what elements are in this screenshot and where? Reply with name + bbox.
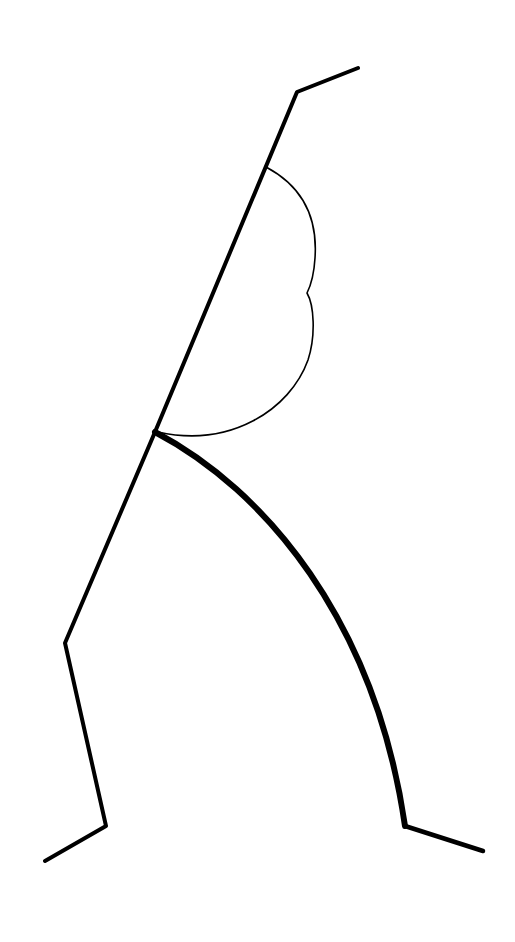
- line-drawing: [0, 0, 515, 942]
- background: [0, 0, 515, 942]
